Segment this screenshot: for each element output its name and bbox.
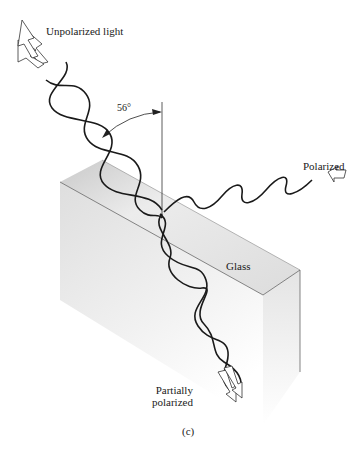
glass-label: Glass [226, 260, 250, 272]
polarized-label: Polarized [303, 160, 345, 172]
unpolarized-arrow-icon [18, 20, 48, 68]
glass-side-face [263, 270, 300, 425]
partially-polarized-line-1: Partially [152, 384, 193, 396]
unpolarized-light-label: Unpolarized light [46, 25, 123, 37]
partially-polarized-line-2: polarized [152, 396, 193, 408]
partially-polarized-label: Partially polarized [152, 384, 193, 408]
arrowhead-right-icon [152, 109, 162, 115]
angle-arc [102, 109, 162, 138]
angle-label: 56° [117, 102, 131, 114]
figure-caption: (c) [182, 425, 194, 437]
